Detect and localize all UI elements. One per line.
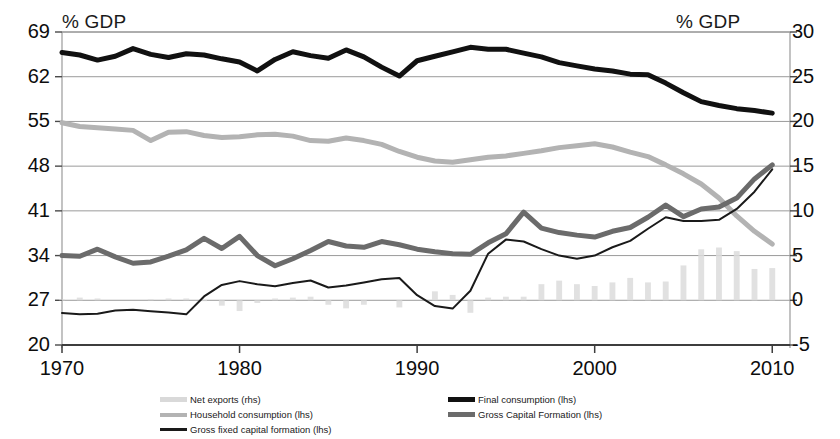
legend-swatch-icon	[160, 413, 187, 417]
right-tick-0: 0	[792, 289, 838, 309]
left-tick-48: 48	[4, 155, 50, 175]
legend-item-label: Net exports (rhs)	[190, 394, 261, 405]
legend-item[interactable]: Final consumption (lhs)	[448, 392, 602, 407]
bar-1996	[521, 297, 527, 301]
legend-item[interactable]: Household consumption (lhs)	[160, 407, 332, 422]
bar-1977	[183, 298, 189, 300]
legend-right-column: Final consumption (lhs)Gross Capital For…	[448, 392, 602, 422]
left-tick-62: 62	[4, 66, 50, 86]
bar-1983	[290, 298, 296, 301]
left-tick-55: 55	[4, 110, 50, 130]
x-tick-2010: 2010	[732, 358, 812, 378]
bar-2000	[592, 286, 598, 300]
bar-2001	[610, 282, 616, 300]
bar-1970	[59, 299, 65, 300]
right-tick-10: 10	[792, 200, 838, 220]
bar-1980	[237, 300, 243, 311]
x-tick-2000: 2000	[555, 358, 635, 378]
bar-2010	[769, 268, 775, 300]
bar-2002	[627, 278, 633, 300]
bar-1995	[503, 297, 509, 301]
bar-1982	[272, 298, 278, 300]
bar-1978	[201, 300, 207, 301]
bar-1984	[308, 297, 314, 301]
right-tick-15: 15	[792, 155, 838, 175]
left-tick-41: 41	[4, 200, 50, 220]
legend-item-label: Household consumption (lhs)	[190, 409, 313, 420]
left-axis-title: % GDP	[62, 11, 126, 33]
right-tick-30: 30	[792, 21, 838, 41]
left-tick-34: 34	[4, 245, 50, 265]
bar-1994	[485, 298, 491, 301]
x-tick-1990: 1990	[377, 358, 457, 378]
bar-1981	[254, 300, 260, 303]
bar-1997	[538, 284, 544, 300]
legend-swatch-icon	[448, 412, 475, 417]
bar-1992	[450, 295, 456, 300]
bar-1985	[325, 300, 331, 304]
bar-1998	[556, 281, 562, 301]
bar-1986	[343, 300, 349, 308]
legend-swatch-icon	[160, 397, 187, 402]
bar-1989	[396, 300, 402, 307]
right-tick-5: 5	[792, 245, 838, 265]
right-tick-20: 20	[792, 110, 838, 130]
right-tick-25: 25	[792, 66, 838, 86]
series-line-final-consumption-lhs	[62, 47, 772, 113]
legend-swatch-icon	[160, 428, 187, 431]
bar-2008	[734, 251, 740, 300]
bar-2007	[716, 248, 722, 301]
legend-swatch-icon	[448, 397, 475, 402]
legend-item[interactable]: Gross Capital Formation (lhs)	[448, 407, 602, 422]
bar-1993	[467, 300, 473, 313]
bar-1991	[432, 291, 438, 300]
bar-1979	[219, 300, 225, 305]
right-tick--5: -5	[792, 334, 838, 354]
legend-item[interactable]: Net exports (rhs)	[160, 392, 332, 407]
chart-container: % GDP % GDP 2027344148556269 -5051015202…	[0, 0, 840, 439]
legend-item-label: Gross Capital Formation (lhs)	[478, 409, 602, 420]
x-tick-1970: 1970	[22, 358, 102, 378]
bar-2004	[663, 282, 669, 301]
legend-left-column: Net exports (rhs)Household consumption (…	[160, 392, 332, 437]
bar-1971	[77, 298, 83, 301]
bar-1987	[361, 300, 367, 304]
bar-2005	[681, 265, 687, 300]
right-axis-title: % GDP	[676, 11, 740, 33]
bar-2003	[645, 282, 651, 300]
bar-2009	[752, 269, 758, 300]
legend-item[interactable]: Gross fixed capital formation (lhs)	[160, 422, 332, 437]
left-tick-20: 20	[4, 334, 50, 354]
bar-2006	[698, 249, 704, 300]
bar-1999	[574, 284, 580, 300]
series-line-gross-capital-formation-lhs	[62, 165, 772, 266]
series-line-household-consumption-lhs	[62, 123, 772, 244]
left-tick-27: 27	[4, 289, 50, 309]
legend-item-label: Gross fixed capital formation (lhs)	[190, 424, 332, 435]
x-tick-1980: 1980	[200, 358, 280, 378]
x-axis-tick-labels: 19701980199020002010	[0, 352, 840, 386]
legend-item-label: Final consumption (lhs)	[478, 394, 576, 405]
bar-1972	[95, 298, 101, 300]
bar-1975	[148, 299, 154, 300]
bar-1976	[166, 298, 172, 300]
left-tick-69: 69	[4, 21, 50, 41]
